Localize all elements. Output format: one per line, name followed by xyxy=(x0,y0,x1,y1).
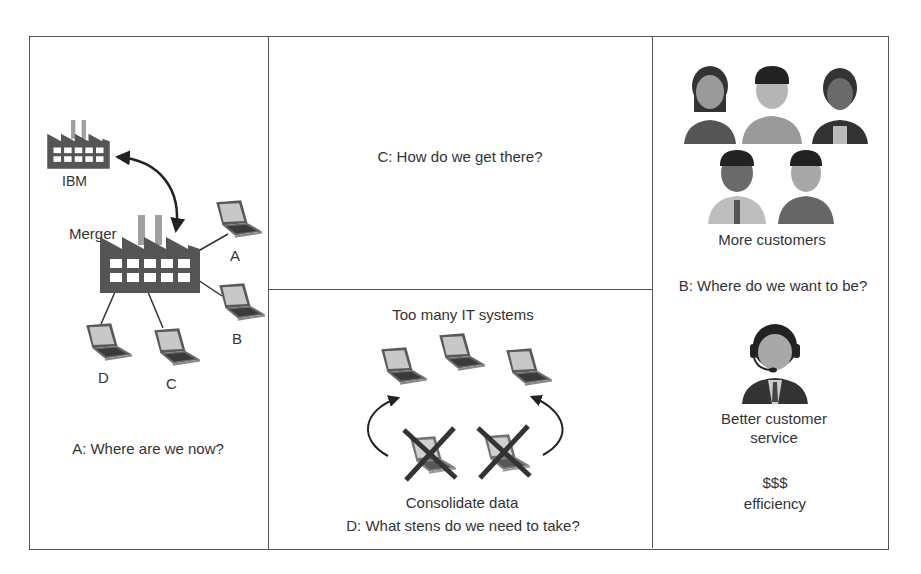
panel-d-caption: D: What stens do we need to take? xyxy=(346,517,579,534)
panel-b-caption: B: Where do we want to be? xyxy=(679,277,867,294)
more-customers-label: More customers xyxy=(718,231,826,248)
customer-service-agent-icon xyxy=(740,320,810,406)
removed-laptop-icon xyxy=(472,426,536,481)
consolidate-label: Consolidate data xyxy=(406,494,519,511)
efficiency-label: efficiency xyxy=(744,495,806,512)
money-label: $$$ xyxy=(762,474,787,491)
service-label-line1: Better customer xyxy=(721,410,827,427)
customers-icon xyxy=(680,60,870,230)
service-label-line2: service xyxy=(750,429,798,446)
removed-laptop-icon xyxy=(398,428,462,483)
